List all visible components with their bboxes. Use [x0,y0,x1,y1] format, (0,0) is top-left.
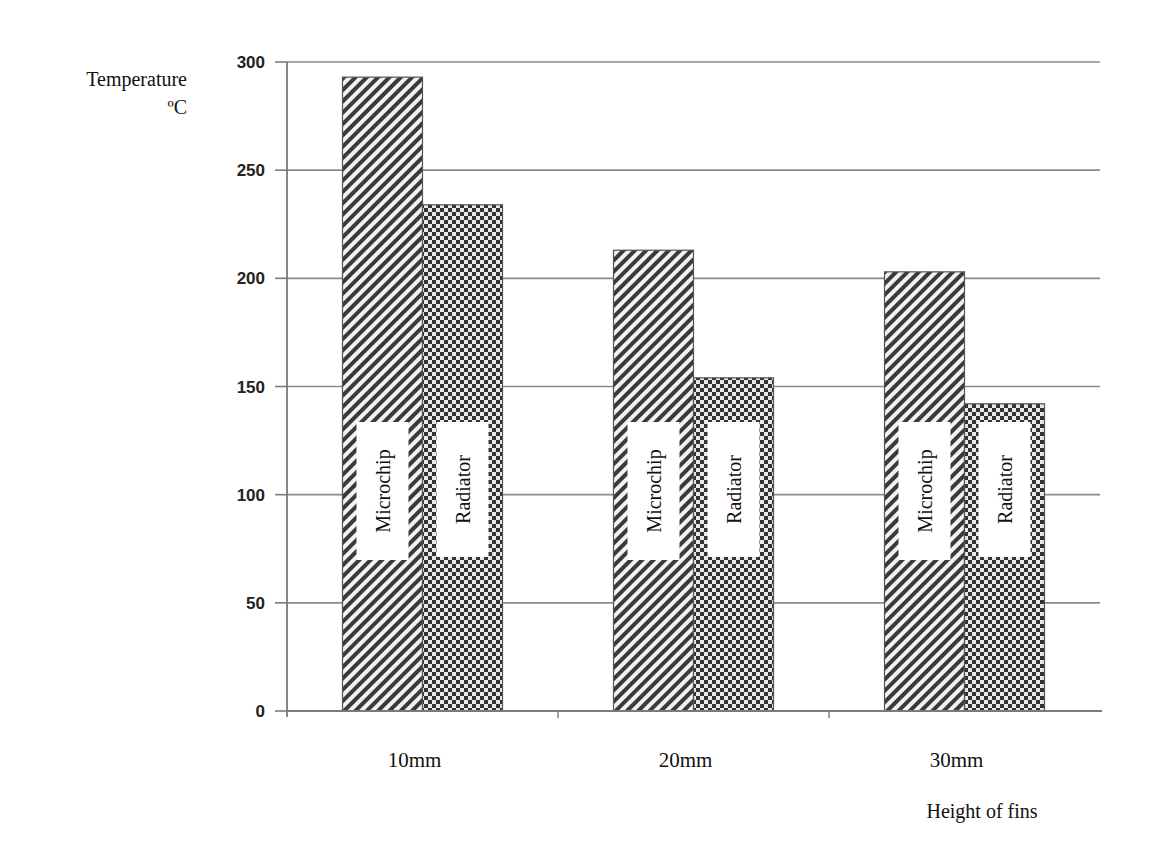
y-tick-label: 0 [256,702,265,721]
series-label: Radiator [994,455,1016,524]
bar-radiator-20mm: Radiator [694,378,774,711]
x-axis-label: Height of fins [926,800,1037,823]
y-axis-title-line1: Temperature [86,68,187,91]
x-tick-labels: 10mm20mm30mm [388,748,984,772]
x-axis-title: Height of fins [926,800,1037,823]
bar-microchip-10mm: Microchip [343,77,423,711]
y-tick-label: 100 [237,486,265,505]
y-tick-label: 150 [237,378,265,397]
bar-radiator-10mm: Radiator [423,205,503,711]
x-tick-label: 10mm [388,748,442,772]
y-tick-label: 50 [246,594,265,613]
series-label: Microchip [643,449,666,532]
bar-radiator-30mm: Radiator [965,404,1045,711]
y-tick-labels: 050100150200250300 [237,53,265,721]
series-label: Radiator [723,455,745,524]
y-axis-label: TemperatureºC [86,68,187,118]
y-tick-label: 200 [237,269,265,288]
series-label: Microchip [914,449,937,532]
x-tick-label: 20mm [659,748,713,772]
series-label: Microchip [372,449,395,532]
x-tick-label: 30mm [930,748,984,772]
bar-microchip-30mm: Microchip [885,272,965,711]
series-label: Radiator [452,455,474,524]
bar-microchip-20mm: Microchip [614,250,694,711]
bar-chart: TemperatureºC 050100150200250300 Microch… [0,0,1156,866]
y-axis-title-line2: ºC [167,96,187,118]
bars: MicrochipRadiatorMicrochipRadiatorMicroc… [343,77,1045,711]
y-tick-label: 300 [237,53,265,72]
y-tick-label: 250 [237,161,265,180]
